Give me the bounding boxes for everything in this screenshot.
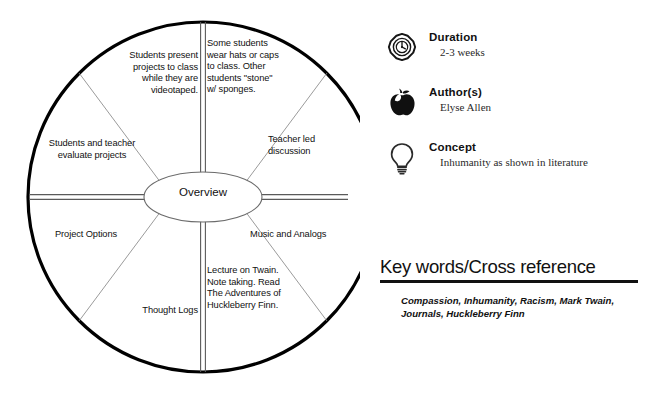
apple-icon — [383, 87, 421, 125]
wheel-sector-lecture: Lecture on Twain. Note taking. Read The … — [207, 265, 281, 311]
metadata-title-concept: Concept — [429, 140, 635, 154]
metadata-value-duration: 2-3 weeks — [429, 45, 635, 59]
lightbulb-icon — [383, 142, 421, 180]
lesson-wheel-diagram: Some students wear hats or caps to class… — [0, 0, 360, 393]
metadata-value-concept: Inhumanity as shown in literature — [429, 155, 635, 169]
metadata-value-author: Elyse Allen — [429, 100, 635, 114]
wheel-sector-project-options: Project Options — [55, 229, 140, 241]
keywords-panel: Key words/Cross reference Compassion, In… — [380, 256, 638, 320]
metadata-title-author: Author(s) — [429, 85, 635, 99]
wheel-sector-hats: Some students wear hats or caps to class… — [207, 38, 279, 96]
keywords-heading: Key words/Cross reference — [380, 256, 638, 278]
keywords-list: Compassion, Inhumanity, Racism, Mark Twa… — [380, 294, 617, 320]
wheel-sector-music: Music and Analogs — [250, 229, 340, 241]
keywords-divider — [380, 280, 638, 283]
stopwatch-icon — [383, 32, 421, 70]
metadata-title-duration: Duration — [429, 30, 635, 44]
wheel-sector-present: Students present projects to class while… — [118, 50, 198, 96]
metadata-row-concept: Concept Inhumanity as shown in literatur… — [383, 140, 635, 184]
wheel-sector-teacher-led: Teacher led discussion — [268, 134, 338, 157]
wheel-sector-evaluate: Students and teacher evaluate projects — [46, 138, 138, 161]
metadata-row-author: Author(s) Elyse Allen — [383, 85, 635, 129]
metadata-row-duration: Duration 2-3 weeks — [383, 30, 635, 74]
lesson-metadata-panel: Duration 2-3 weeks Author(s) Elyse Allen… — [383, 30, 635, 195]
wheel-sector-thought-logs: Thought Logs — [120, 305, 198, 317]
wheel-hub-label: Overview — [144, 186, 262, 198]
